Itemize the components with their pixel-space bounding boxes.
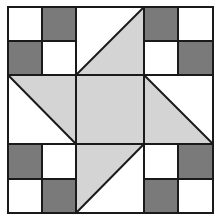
dark-square bbox=[144, 7, 178, 41]
dark-square bbox=[42, 179, 76, 213]
dark-square bbox=[42, 7, 76, 41]
dark-square bbox=[8, 144, 42, 179]
quilt-block bbox=[0, 0, 216, 220]
dark-square bbox=[178, 144, 213, 179]
dark-square bbox=[178, 41, 213, 75]
dark-square bbox=[8, 41, 42, 75]
dark-square bbox=[144, 179, 178, 213]
center-square bbox=[76, 75, 144, 144]
